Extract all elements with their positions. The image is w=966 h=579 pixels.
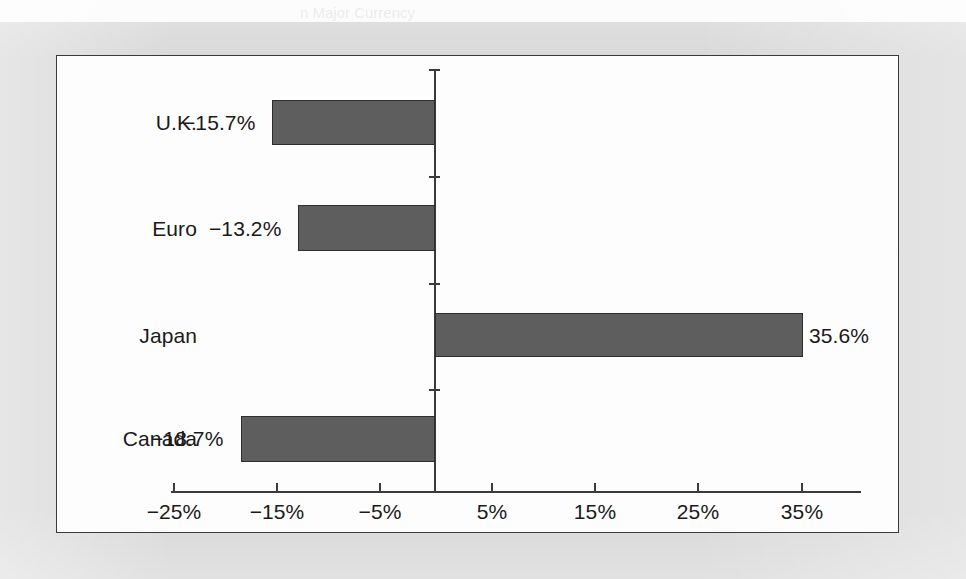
x-tick--15 [276,483,278,492]
category-label-japan: Japan [67,324,197,348]
x-tick-label-15: 15% [574,500,616,524]
value-label-uk: −15.7% [183,111,255,135]
x-tick-15 [594,483,596,492]
category-label-euro: Euro [67,217,197,241]
x-tick-label--15: −15% [250,500,305,524]
x-tick-label--5: −5% [359,500,402,524]
x-tick--5 [379,483,381,492]
x-tick-25 [697,483,699,492]
bar-japan[interactable] [435,313,803,357]
x-tick-label-25: 25% [677,500,719,524]
value-label-euro: −13.2% [209,217,281,241]
y-tick-euro-japan [429,283,440,285]
x-tick-label-35: 35% [781,500,823,524]
value-label-canada: −18.7% [151,427,223,451]
x-tick-35 [801,483,803,492]
x-tick--25 [173,483,175,492]
x-tick-label--25: −25% [147,500,202,524]
value-label-japan: 35.6% [809,324,869,348]
page-top-strip [0,0,966,22]
y-tick-uk-euro [429,176,440,178]
x-tick-5 [491,483,493,492]
bar-uk[interactable] [272,100,435,145]
y-tick-top [429,69,440,71]
category-label-uk: U.K. [67,111,197,135]
plot-area: U.K. Euro Japan Canada −15.7% −13.2% 35.… [57,56,899,533]
y-tick-japan-canada [429,389,440,391]
bar-euro[interactable] [298,205,435,251]
x-tick-label-5: 5% [477,500,508,524]
scanned-page: n Major Currency Canada China Japan Kore… [0,0,966,579]
chart-frame: U.K. Euro Japan Canada −15.7% −13.2% 35.… [56,55,899,533]
x-axis-line [171,491,861,493]
bar-canada[interactable] [241,416,435,462]
